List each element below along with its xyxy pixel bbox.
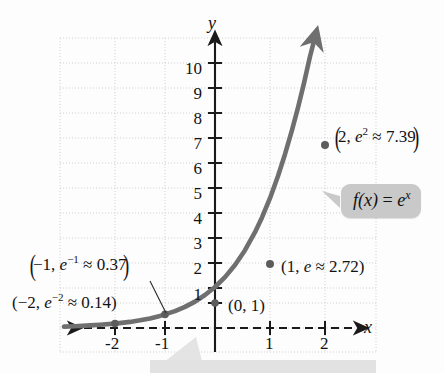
label-point-1-approx: ≈ 2.72) (311, 257, 364, 276)
label-point-2-approx: ≈ 7.39 (368, 127, 416, 146)
leader-line-neg1 (150, 281, 166, 313)
label-point-2-base: e (355, 127, 363, 146)
label-point-neg1-open-paren: ( (30, 250, 36, 280)
label-point-2-open-paren: ( (335, 122, 341, 152)
exponential-curve (64, 41, 314, 327)
point-marker-neg2 (111, 320, 119, 328)
x-tick-neg1: -1 (155, 335, 169, 352)
label-point-neg2-exponent: −2 (52, 291, 64, 303)
x-tick-2: 2 (320, 335, 329, 352)
y-tick-9: 9 (170, 85, 202, 102)
label-point-neg1-x: −1, (33, 255, 60, 274)
point-marker-zero (211, 299, 219, 307)
label-point-0: (0, 1) (228, 297, 265, 314)
label-point-2-close-paren: ) (413, 122, 419, 152)
y-tick-5: 5 (170, 185, 202, 202)
label-point-2: (2, e2 ≈ 7.39) (331, 122, 423, 152)
y-tick-4: 4 (170, 210, 202, 227)
label-point-1-prefix: (1, (281, 257, 304, 276)
label-point-neg2: (−2, e−2 ≈ 0.14) (12, 294, 117, 311)
point-marker-one (266, 260, 274, 268)
curve-point-markers (111, 141, 329, 327)
callout-equals: = (378, 190, 397, 210)
label-point-neg1-close-paren: ) (123, 250, 129, 280)
point-marker-two (321, 141, 329, 149)
label-point-1: (1, e ≈ 2.72) (281, 258, 364, 275)
y-tick-10: 10 (170, 60, 202, 77)
x-tick-1: 1 (265, 335, 274, 352)
callout-tail (322, 191, 340, 208)
y-axis-label: y (208, 14, 216, 32)
label-point-neg2-prefix: (−2, (12, 293, 44, 312)
x-tick-neg2: -2 (105, 335, 119, 352)
y-tick-3: 3 (170, 235, 202, 252)
label-point-neg2-approx: ≈ 0.14) (64, 293, 117, 312)
y-tick-2: 2 (170, 260, 202, 277)
callout-base: e (397, 190, 405, 210)
y-tick-8: 8 (170, 110, 202, 127)
label-point-neg2-base: e (44, 293, 52, 312)
label-point-neg1-base: e (60, 255, 68, 274)
y-tick-1: 1 (170, 286, 202, 303)
exponential-graph-figure: 10 9 8 7 6 5 4 3 2 1 -2 -1 1 2 y x (2, e… (0, 0, 444, 373)
callout-exponent: x (405, 188, 410, 202)
callout-function-name: f(x) (353, 190, 378, 210)
x-axis-label: x (364, 318, 372, 336)
function-callout: f(x) = ex (341, 184, 421, 218)
bottom-callout-tail (150, 337, 376, 373)
label-point-neg1-exponent: −1 (67, 253, 79, 265)
y-tick-7: 7 (170, 135, 202, 152)
label-point-neg1-approx: ≈ 0.37 (79, 255, 127, 274)
label-point-neg1: (−1, e−1 ≈ 0.37) (26, 250, 133, 280)
y-tick-6: 6 (170, 160, 202, 177)
